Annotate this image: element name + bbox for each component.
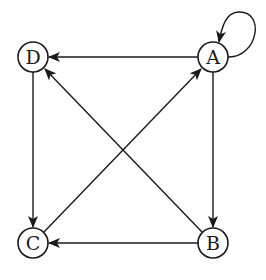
node-b: B (198, 228, 228, 258)
edge-b-to-d (45, 69, 202, 232)
node-d: D (18, 42, 48, 72)
edge-c-to-a (44, 69, 201, 232)
node-c-label: C (26, 232, 41, 254)
node-c: C (18, 228, 48, 258)
node-a: A (198, 42, 228, 72)
node-d-label: D (25, 46, 40, 68)
node-a-label: A (205, 46, 220, 68)
graph-diagram: A B C D (0, 0, 266, 280)
node-b-label: B (206, 232, 220, 254)
